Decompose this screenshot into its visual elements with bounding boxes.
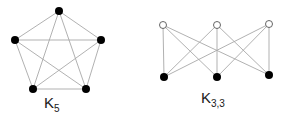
filled-vertex-icon (213, 73, 221, 81)
hollow-vertex-icon (266, 21, 273, 28)
edge (15, 40, 86, 89)
k5-label: K5 (44, 94, 60, 114)
edge (15, 40, 33, 89)
filled-vertex-icon (55, 7, 63, 15)
edge (59, 11, 101, 40)
filled-vertex-icon (11, 36, 19, 44)
edge (163, 25, 164, 77)
filled-vertex-icon (29, 85, 37, 93)
filled-vertex-icon (160, 73, 168, 81)
filled-vertex-icon (82, 85, 90, 93)
hollow-vertex-icon (160, 22, 167, 29)
filled-vertex-icon (265, 71, 273, 79)
edge (15, 11, 59, 40)
hollow-vertex-icon (214, 22, 221, 29)
edge (33, 11, 59, 89)
edge (33, 40, 101, 89)
graph-diagram: K5 K3,3 (0, 0, 286, 115)
edge (164, 24, 269, 77)
k5-edges (15, 11, 101, 89)
k33-label: K3,3 (201, 89, 225, 109)
k33-edges (163, 24, 269, 77)
edge (59, 11, 86, 89)
k33-bipartite-graph: K3,3 (160, 21, 274, 110)
edge (86, 40, 101, 89)
k5-complete-graph: K5 (11, 7, 105, 114)
filled-vertex-icon (97, 36, 105, 44)
k5-vertices (11, 7, 105, 93)
